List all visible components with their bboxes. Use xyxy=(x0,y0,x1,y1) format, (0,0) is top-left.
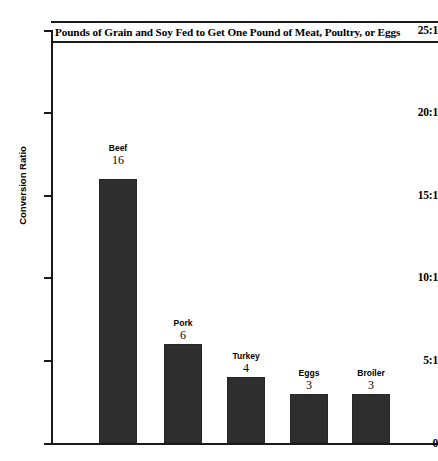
bar-label-eggs: Eggs 3 xyxy=(279,368,339,392)
bar-turkey[interactable] xyxy=(227,377,265,443)
bar-pork[interactable] xyxy=(164,344,202,443)
bar-value-turkey: 4 xyxy=(216,362,276,375)
bar-label-broiler: Broiler 3 xyxy=(341,368,401,392)
y-tick-label-20: 20:1 xyxy=(396,106,438,118)
chart-title-box: Pounds of Grain and Soy Fed to Get One P… xyxy=(51,21,438,43)
y-tick-25 xyxy=(44,30,53,32)
y-tick-0 xyxy=(44,443,53,445)
bar-label-beef: Beef 16 xyxy=(88,143,148,167)
x-axis-line xyxy=(51,443,438,445)
bar-value-eggs: 3 xyxy=(279,379,339,392)
y-axis-line xyxy=(51,30,53,444)
bar-broiler[interactable] xyxy=(352,394,390,443)
bar-value-pork: 6 xyxy=(153,329,213,342)
bar-label-turkey: Turkey 4 xyxy=(216,351,276,375)
bar-value-broiler: 3 xyxy=(341,379,401,392)
y-tick-label-5: 5:1 xyxy=(396,354,438,366)
chart-title: Pounds of Grain and Soy Fed to Get One P… xyxy=(51,26,400,38)
y-tick-15 xyxy=(44,195,53,197)
y-tick-5 xyxy=(44,360,53,362)
bar-value-beef: 16 xyxy=(88,154,148,167)
y-axis-title: Conversion Ratio xyxy=(17,126,28,246)
y-tick-20 xyxy=(44,112,53,114)
y-tick-label-10: 10:1 xyxy=(396,271,438,283)
chart-canvas: Pounds of Grain and Soy Fed to Get One P… xyxy=(0,0,438,461)
bar-beef[interactable] xyxy=(99,179,137,443)
y-tick-10 xyxy=(44,277,53,279)
y-tick-label-15: 15:1 xyxy=(396,189,438,201)
bar-eggs[interactable] xyxy=(290,394,328,443)
y-tick-label-0: 0 xyxy=(396,437,438,449)
bar-label-pork: Pork 6 xyxy=(153,318,213,342)
y-tick-label-25: 25:1 xyxy=(396,24,438,36)
